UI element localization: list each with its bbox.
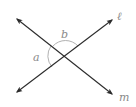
- intersecting-lines-figure: ℓ m a b: [0, 0, 136, 107]
- angle-a-arc: [48, 46, 52, 67]
- label-line-l: ℓ: [117, 10, 122, 23]
- angle-b-arc: [53, 41, 78, 46]
- diagram-canvas: ℓ m a b: [0, 0, 136, 107]
- label-line-m: m: [119, 91, 129, 104]
- label-angle-a: a: [33, 51, 40, 64]
- label-angle-b: b: [61, 28, 68, 41]
